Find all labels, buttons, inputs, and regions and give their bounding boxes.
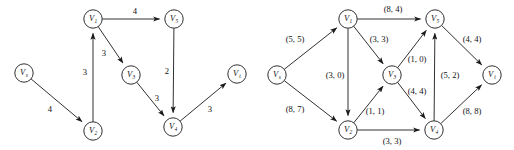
node-right-graph-v5: V5 — [426, 10, 444, 28]
edge-label-left-graph-vs-v2: 4 — [48, 104, 53, 114]
edge-right-graph-vs-to-v2 — [284, 81, 336, 122]
edge-labels-layer: 4343323(5, 5)(8, 7)(8, 4)(3, 3)(3, 0)(1,… — [48, 4, 482, 146]
edge-label-left-graph-v4-vt: 3 — [208, 104, 212, 114]
node-subscript-v5: 5 — [437, 18, 440, 24]
node-left-graph-vt: Vt — [228, 65, 246, 83]
node-left-graph-v5: V5 — [165, 10, 183, 28]
node-right-graph-v2: V2 — [339, 121, 357, 139]
node-subscript-v4: 4 — [175, 126, 178, 132]
node-right-graph-v3: V3 — [383, 66, 401, 84]
edge-right-graph-v1-to-v3 — [354, 26, 383, 63]
node-subscript-v3: 3 — [132, 74, 136, 80]
node-left-graph-vs: Vs — [15, 64, 33, 82]
node-subscript-v1: 1 — [95, 18, 98, 24]
edge-label-left-graph-v3-v4: 3 — [155, 93, 159, 103]
edge-label-right-graph-v3-v5: (1, 0) — [408, 54, 427, 64]
edge-label-right-graph-v2-v3: (1, 1) — [366, 106, 385, 116]
node-right-graph-vs: Vs — [268, 66, 286, 84]
edge-left-graph-v3-to-v4 — [137, 82, 164, 116]
edge-left-graph-v4-to-vt — [180, 83, 226, 121]
edge-right-graph-v4-to-v5 — [434, 33, 435, 120]
node-subscript-v3: 3 — [393, 74, 397, 80]
node-left-graph-v3: V3 — [122, 66, 140, 84]
node-left-graph-v4: V4 — [164, 118, 182, 136]
edge-label-right-graph-vs-v1: (5, 5) — [286, 34, 305, 44]
figure-root: VsV1V2V3V4V5VtVsV1V2V3V4V5Vt 4343323(5, … — [0, 0, 514, 150]
edge-label-right-graph-v4-v5: (5, 2) — [441, 70, 460, 80]
node-subscript-v2: 2 — [95, 130, 98, 136]
node-right-graph-vt: Vt — [483, 66, 501, 84]
edge-label-right-graph-v2-v4: (3, 3) — [383, 136, 402, 146]
node-right-graph-v1: V1 — [339, 10, 357, 28]
edge-label-left-graph-v1-v5: 4 — [133, 6, 138, 16]
node-subscript-v4: 4 — [436, 129, 439, 135]
edge-label-right-graph-vs-v2: (8, 7) — [286, 104, 305, 114]
edges-layer — [31, 19, 482, 130]
edge-label-right-graph-v5-vt: (4, 4) — [463, 34, 482, 44]
nodes-layer: VsV1V2V3V4V5VtVsV1V2V3V4V5Vt — [15, 10, 501, 140]
node-left-graph-v2: V2 — [84, 122, 102, 140]
node-subscript-v2: 2 — [350, 129, 353, 135]
edge-label-left-graph-v1-v3: 3 — [102, 48, 106, 58]
node-right-graph-v4: V4 — [425, 121, 443, 139]
edge-left-graph-vs-to-v2 — [31, 79, 82, 122]
edge-label-right-graph-v1-v5: (8, 4) — [384, 4, 403, 14]
edge-right-graph-v4-to-vt — [441, 85, 482, 124]
node-subscript-vs: s — [26, 72, 28, 78]
edge-right-graph-v2-to-v3 — [354, 86, 383, 123]
edge-right-graph-v5-to-vt — [442, 25, 482, 64]
edge-label-right-graph-v1-v3: (3, 3) — [370, 34, 389, 44]
edge-left-graph-v5-to-v4 — [173, 28, 174, 112]
graph-figure-canvas: VsV1V2V3V4V5VtVsV1V2V3V4V5Vt 4343323(5, … — [0, 0, 514, 150]
node-subscript-vs: s — [279, 74, 281, 80]
edge-label-right-graph-v4-vt: (8, 8) — [463, 106, 482, 116]
node-left-graph-v1: V1 — [84, 10, 102, 28]
edge-label-left-graph-v5-v4: 2 — [165, 66, 169, 76]
node-subscript-v1: 1 — [350, 18, 353, 24]
edge-label-left-graph-v2-v1: 3 — [83, 67, 87, 77]
node-subscript-v5: 5 — [176, 18, 179, 24]
edge-label-right-graph-v3-v4: (4, 4) — [408, 86, 427, 96]
edge-label-right-graph-v1-v2: (3, 0) — [326, 70, 345, 80]
